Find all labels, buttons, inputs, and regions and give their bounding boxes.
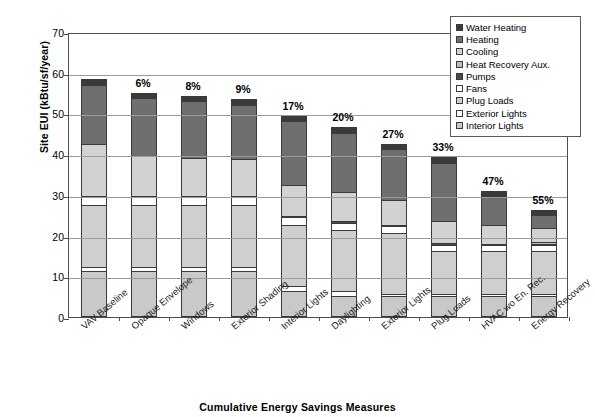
legend-item: Plug Loads <box>456 95 575 107</box>
bar-segment <box>481 196 507 225</box>
legend-item-label: Exterior Lights <box>466 108 527 119</box>
legend-swatch-icon <box>456 36 463 43</box>
y-axis-tick-label: 30 <box>40 190 64 202</box>
y-axis-tick <box>64 34 69 35</box>
bar-segment <box>331 223 357 230</box>
bar-segment <box>131 156 157 196</box>
legend-item: Cooling <box>456 46 575 58</box>
legend-swatch-icon <box>456 97 463 104</box>
y-axis-tick <box>64 115 69 116</box>
bar-segment <box>181 158 207 196</box>
bar-segment <box>531 228 557 242</box>
bar-segment <box>281 225 307 286</box>
savings-percent-label: 27% <box>382 128 403 140</box>
x-axis-tick <box>569 317 570 321</box>
bar-segment <box>481 225 507 244</box>
legend-item-label: Interior Lights <box>466 120 524 131</box>
legend-item: Interior Lights <box>456 119 575 131</box>
legend-swatch-icon <box>456 24 463 31</box>
bar-segment <box>231 159 257 195</box>
y-axis: Site EUI (kBtu/sf/year) 010203040506070 <box>40 33 64 318</box>
bar-segment <box>381 200 407 225</box>
stacked-bar <box>381 144 407 317</box>
x-axis-tick <box>119 317 120 321</box>
gridline <box>69 238 567 239</box>
legend-item-label: Heat Recovery Aux. <box>466 59 550 70</box>
bar-segment <box>131 197 157 205</box>
y-axis-tick-label: 60 <box>40 68 64 80</box>
bar-segment <box>331 133 357 192</box>
bar-segment <box>181 205 207 266</box>
savings-percent-label: 47% <box>482 175 503 187</box>
legend-item-label: Cooling <box>466 46 498 57</box>
x-axis-tick <box>419 317 420 321</box>
legend-item-label: Pumps <box>466 71 496 82</box>
legend-item: Fans <box>456 82 575 94</box>
x-axis-tick <box>519 317 520 321</box>
y-axis-tick <box>64 238 69 239</box>
bar-segment <box>531 215 557 228</box>
legend-swatch-icon <box>456 61 463 68</box>
savings-percent-label: 55% <box>532 194 553 206</box>
bar-segment <box>431 221 457 244</box>
bar-segment <box>81 197 107 205</box>
savings-percent-label: 17% <box>282 100 303 112</box>
legend-item: Exterior Lights <box>456 107 575 119</box>
bar-segment <box>431 251 457 295</box>
y-axis-tick-label: 20 <box>40 231 64 243</box>
bar-segment <box>131 205 157 266</box>
y-axis-tick <box>64 197 69 198</box>
stacked-bar <box>231 99 257 317</box>
y-axis-tick-label: 0 <box>40 312 64 324</box>
y-axis-tick <box>64 75 69 76</box>
savings-percent-label: 9% <box>235 83 250 95</box>
y-axis-tick <box>64 319 69 320</box>
y-axis-title: Site EUI (kBtu/sf/year) <box>38 41 50 153</box>
savings-percent-label: 6% <box>135 77 150 89</box>
legend-item: Water Heating <box>456 21 575 33</box>
legend-swatch-icon <box>456 85 463 92</box>
x-axis-tick <box>219 317 220 321</box>
legend: Water HeatingHeatingCoolingHeat Recovery… <box>450 16 581 137</box>
y-axis-tick-label: 50 <box>40 108 64 120</box>
legend-swatch-icon <box>456 122 463 129</box>
bar-segment <box>231 197 257 205</box>
x-axis-tick <box>469 317 470 321</box>
bar-segment <box>281 121 307 185</box>
x-axis-tick <box>269 317 270 321</box>
legend-swatch-icon <box>456 73 463 80</box>
legend-item-label: Fans <box>466 83 487 94</box>
y-axis-tick <box>64 278 69 279</box>
legend-item: Heating <box>456 33 575 45</box>
y-axis-tick <box>64 156 69 157</box>
y-axis-tick-label: 70 <box>40 27 64 39</box>
bar-segment <box>131 98 157 155</box>
bar-segment <box>281 217 307 224</box>
legend-swatch-icon <box>456 110 463 117</box>
gridline <box>69 197 567 198</box>
legend-item-label: Plug Loads <box>466 95 514 106</box>
bar-segment <box>481 251 507 295</box>
y-axis-tick-label: 10 <box>40 271 64 283</box>
bar-segment <box>231 205 257 266</box>
gridline <box>69 278 567 279</box>
bar-segment <box>331 230 357 291</box>
x-axis-tick <box>369 317 370 321</box>
savings-percent-label: 20% <box>332 111 353 123</box>
bar-segment <box>181 197 207 205</box>
bar-segment <box>281 185 307 216</box>
bar-segment <box>81 205 107 266</box>
x-axis-tick <box>169 317 170 321</box>
legend-item-label: Water Heating <box>466 22 526 33</box>
legend-swatch-icon <box>456 48 463 55</box>
stacked-bar <box>531 210 557 317</box>
bar-segment <box>431 163 457 221</box>
gridline <box>69 156 567 157</box>
legend-item: Pumps <box>456 70 575 82</box>
bar-segment <box>231 105 257 160</box>
bar-segment <box>81 144 107 195</box>
savings-percent-label: 33% <box>432 141 453 153</box>
bar-segment <box>181 101 207 158</box>
legend-item: Heat Recovery Aux. <box>456 58 575 70</box>
savings-percent-label: 8% <box>185 80 200 92</box>
